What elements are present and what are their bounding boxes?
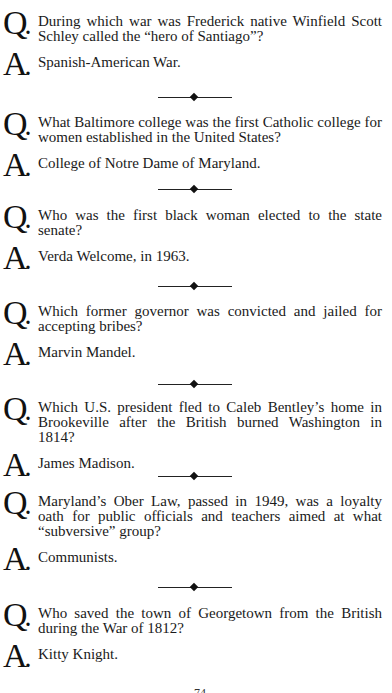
diamond-ornament-icon <box>190 185 198 193</box>
diamond-ornament-icon <box>190 583 198 591</box>
answer-marker: A. <box>3 47 31 85</box>
question-row: Q. Which former governor was convicted a… <box>0 304 392 334</box>
question-text: Maryland’s Ober Law, passed in 1949, was… <box>38 494 382 539</box>
answer-text: College of Notre Dame of Maryland. <box>38 156 382 171</box>
answer-marker: A. <box>3 448 31 486</box>
answer-marker: A. <box>3 542 31 580</box>
section-divider <box>158 185 232 193</box>
answer-row: A. Spanish-American War. <box>0 55 392 70</box>
question-row: Q. Which U.S. president fled to Caleb Be… <box>0 400 392 445</box>
question-text: What Baltimore college was the first Cat… <box>38 115 382 145</box>
answer-row: A. Verda Welcome, in 1963. <box>0 249 392 264</box>
question-row: Q. Who was the first black woman elected… <box>0 208 392 238</box>
answer-row: A. Kitty Knight. <box>0 647 392 662</box>
answer-text: Marvin Mandel. <box>38 345 382 360</box>
answer-text: James Madison. <box>38 456 382 471</box>
question-marker: Q. <box>3 296 31 334</box>
answer-text: Kitty Knight. <box>38 647 382 662</box>
answer-text: Verda Welcome, in 1963. <box>38 249 382 264</box>
answer-marker: A. <box>3 337 31 375</box>
question-marker: Q. <box>3 200 31 238</box>
diamond-ornament-icon <box>190 472 198 480</box>
section-divider <box>158 583 232 591</box>
question-marker: Q. <box>3 392 31 430</box>
answer-text: Communists. <box>38 550 382 565</box>
question-text: Who was the first black woman elected to… <box>38 208 382 238</box>
section-divider <box>158 380 232 388</box>
question-marker: Q. <box>3 486 31 524</box>
qa-item: Q. Maryland’s Ober Law, passed in 1949, … <box>0 494 392 565</box>
question-text: Which former governor was convicted and … <box>38 304 382 334</box>
question-row: Q. During which war was Frederick native… <box>0 14 392 44</box>
question-text: During which war was Frederick native Wi… <box>38 14 382 44</box>
question-text: Which U.S. president fled to Caleb Bentl… <box>38 400 382 445</box>
qa-item: Q. Which U.S. president fled to Caleb Be… <box>0 400 392 471</box>
answer-row: A. College of Notre Dame of Maryland. <box>0 156 392 171</box>
question-row: Q. Maryland’s Ober Law, passed in 1949, … <box>0 494 392 539</box>
answer-text: Spanish-American War. <box>38 55 382 70</box>
answer-marker: A. <box>3 148 31 186</box>
book-page: Q. During which war was Frederick native… <box>0 0 392 693</box>
answer-row: A. Marvin Mandel. <box>0 345 392 360</box>
answer-marker: A. <box>3 639 31 677</box>
qa-item: Q. What Baltimore college was the first … <box>0 115 392 171</box>
question-marker: Q. <box>3 598 31 636</box>
answer-row: A. James Madison. <box>0 456 392 471</box>
qa-item: Q. Who was the first black woman elected… <box>0 208 392 264</box>
qa-item: Q. Who saved the town of Georgetown from… <box>0 606 392 662</box>
section-divider <box>158 472 232 480</box>
answer-row: A. Communists. <box>0 550 392 565</box>
diamond-ornament-icon <box>190 282 198 290</box>
section-divider <box>158 93 232 101</box>
question-marker: Q. <box>3 107 31 145</box>
question-row: Q. What Baltimore college was the first … <box>0 115 392 145</box>
question-marker: Q. <box>3 6 31 44</box>
section-divider <box>158 282 232 290</box>
question-text: Who saved the town of Georgetown from th… <box>38 606 382 636</box>
diamond-ornament-icon <box>190 380 198 388</box>
qa-item: Q. During which war was Frederick native… <box>0 14 392 70</box>
qa-item: Q. Which former governor was convicted a… <box>0 304 392 360</box>
page-number: 74 <box>180 686 220 693</box>
answer-marker: A. <box>3 241 31 279</box>
question-row: Q. Who saved the town of Georgetown from… <box>0 606 392 636</box>
diamond-ornament-icon <box>190 93 198 101</box>
